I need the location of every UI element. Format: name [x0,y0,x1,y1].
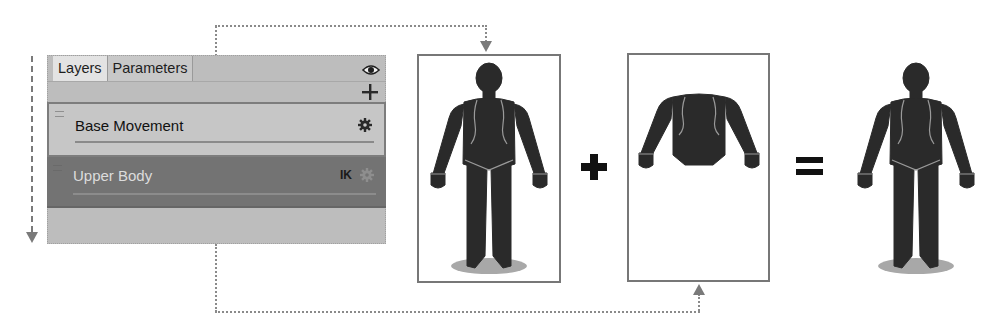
base-movement-figure-box [417,54,561,283]
ik-badge: IK [340,168,352,182]
upper-body-figure-box [627,53,770,282]
connector-upper-horizontal [215,311,700,313]
plus-icon [581,154,607,180]
layer-order-dashed-line [31,56,33,232]
connector-base-drop [485,25,487,42]
full-body-figure [419,56,559,281]
full-body-result-figure [846,56,986,281]
add-layer-button[interactable] [362,83,378,103]
panel-tabs: Layers Parameters [53,56,193,81]
plus-operator [581,154,607,184]
gear-icon[interactable] [358,118,372,136]
layer-order-arrow-icon [26,232,38,243]
layer-weight-bar[interactable] [73,193,376,195]
layer-name: Base Movement [75,117,183,134]
drag-handle-icon[interactable] [53,165,62,171]
connector-upper-rise [698,294,700,311]
equals-operator [796,157,823,181]
connector-upper-vertical [215,244,217,312]
connector-base-horizontal [215,25,487,27]
tabbar-divider [48,81,385,82]
drag-handle-icon[interactable] [55,111,64,117]
layers-panel: Layers Parameters Base Movement Upper Bo… [47,55,386,244]
combined-result-figure [846,56,986,285]
tab-layers[interactable]: Layers [53,56,108,81]
tab-parameters[interactable]: Parameters [108,56,194,81]
eye-icon[interactable] [362,62,380,80]
connector-base-arrow-icon [480,41,492,52]
gear-icon[interactable] [360,168,374,186]
connector-upper-arrow-icon [693,284,705,295]
layer-row-base-movement[interactable]: Base Movement [47,102,386,157]
upper-body-figure [629,55,768,280]
equals-icon [796,157,823,177]
layer-name: Upper Body [73,167,152,184]
connector-base-vertical [215,26,217,56]
layer-row-upper-body[interactable]: Upper Body IK [47,157,386,208]
plus-icon [362,84,378,100]
layer-weight-bar[interactable] [75,141,374,143]
